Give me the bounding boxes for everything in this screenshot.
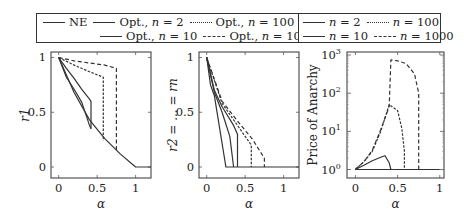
- x-tick-label: 1: [436, 181, 443, 195]
- y-axis-label: r1: [18, 108, 32, 121]
- y-tick-label: 1: [187, 50, 194, 64]
- x-tick-label: 0.5: [88, 181, 106, 195]
- series-line: [355, 105, 404, 170]
- series-line: [355, 156, 391, 170]
- y-tick-label: 0: [39, 160, 46, 174]
- x-tick-label: 0.5: [236, 181, 254, 195]
- chart-area: 00.5100.51αr100.5100.51αr2 = ... = rn00.…: [0, 0, 464, 218]
- axes-frame: [51, 52, 151, 178]
- x-tick-label: 0: [352, 181, 359, 195]
- y-tick-label: 102: [321, 85, 341, 100]
- series-line: [59, 58, 151, 168]
- axes-frame: [347, 52, 444, 178]
- x-tick-label: 0: [55, 181, 62, 195]
- x-axis-label: α: [97, 197, 105, 211]
- series-line: [207, 58, 299, 168]
- series-line: [355, 60, 418, 170]
- series-line: [207, 58, 265, 168]
- series-line: [207, 58, 252, 168]
- chart-panel-3: 00.51100101102103αPrice of Anarchy: [306, 47, 444, 211]
- y-tick-label: 101: [321, 123, 341, 138]
- x-axis-label: α: [391, 197, 399, 211]
- y-tick-label: 0: [187, 160, 194, 174]
- y-axis-label: Price of Anarchy: [306, 64, 320, 166]
- y-tick-label: 103: [321, 47, 341, 62]
- x-tick-label: 0.5: [388, 181, 406, 195]
- x-axis-label: α: [245, 197, 253, 211]
- y-tick-label: 100: [321, 162, 341, 177]
- y-tick-label: 1: [39, 50, 46, 64]
- axes-frame: [199, 52, 299, 178]
- y-axis-label: r2 = ... = rn: [166, 78, 180, 152]
- x-tick-label: 0: [203, 181, 210, 195]
- x-tick-label: 1: [132, 181, 139, 195]
- chart-panel-1: 00.5100.51αr1: [18, 50, 151, 211]
- x-tick-label: 1: [280, 181, 287, 195]
- chart-panel-2: 00.5100.51αr2 = ... = rn: [166, 50, 299, 211]
